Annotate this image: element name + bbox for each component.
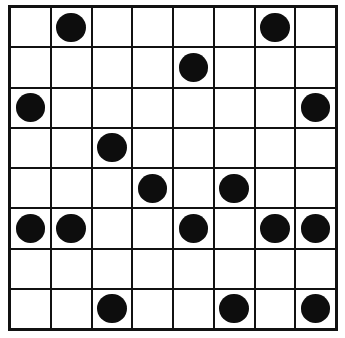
grid-cell[interactable]: [93, 250, 132, 288]
grid-cell[interactable]: [11, 169, 50, 207]
grid-cell[interactable]: [256, 129, 295, 167]
grid-cell[interactable]: [215, 89, 254, 127]
grid-cell[interactable]: [296, 169, 335, 207]
grid-cell[interactable]: [11, 250, 50, 288]
grid-cell[interactable]: [215, 209, 254, 247]
grid-cell[interactable]: [174, 89, 213, 127]
dot-icon: [97, 133, 126, 162]
dot-icon: [219, 294, 248, 323]
grid-cell[interactable]: [52, 209, 91, 247]
grid-cell[interactable]: [256, 89, 295, 127]
grid-cell[interactable]: [52, 89, 91, 127]
grid-cell[interactable]: [93, 169, 132, 207]
grid-cell[interactable]: [215, 290, 254, 328]
grid-cell[interactable]: [215, 169, 254, 207]
grid-cell[interactable]: [174, 169, 213, 207]
grid-cell[interactable]: [174, 129, 213, 167]
grid-cell[interactable]: [133, 129, 172, 167]
grid-cell[interactable]: [296, 89, 335, 127]
grid-cell[interactable]: [174, 8, 213, 46]
grid-cell[interactable]: [215, 250, 254, 288]
grid-cell[interactable]: [93, 129, 132, 167]
grid-cell[interactable]: [52, 48, 91, 86]
dot-icon: [219, 174, 248, 203]
grid-cell[interactable]: [256, 169, 295, 207]
grid-cell[interactable]: [93, 209, 132, 247]
grid-cell[interactable]: [133, 169, 172, 207]
grid-cell[interactable]: [52, 169, 91, 207]
grid-cell[interactable]: [256, 48, 295, 86]
grid-cell[interactable]: [133, 250, 172, 288]
grid-cell[interactable]: [52, 129, 91, 167]
grid-cell[interactable]: [93, 48, 132, 86]
dot-grid[interactable]: [8, 5, 338, 331]
grid-cell[interactable]: [93, 8, 132, 46]
grid-cell[interactable]: [52, 8, 91, 46]
grid-cell[interactable]: [11, 48, 50, 86]
grid-cell[interactable]: [296, 250, 335, 288]
grid-cell[interactable]: [93, 290, 132, 328]
grid-cell[interactable]: [174, 290, 213, 328]
grid-cell[interactable]: [256, 290, 295, 328]
grid-cell[interactable]: [52, 290, 91, 328]
grid-cell[interactable]: [11, 89, 50, 127]
dot-icon: [97, 294, 126, 323]
dot-icon: [56, 214, 85, 243]
grid-cell[interactable]: [93, 89, 132, 127]
grid-cell[interactable]: [256, 250, 295, 288]
grid-cell[interactable]: [133, 48, 172, 86]
dot-icon: [138, 174, 167, 203]
grid-cell[interactable]: [215, 129, 254, 167]
grid-cell[interactable]: [296, 8, 335, 46]
dot-icon: [301, 214, 330, 243]
grid-cell[interactable]: [11, 129, 50, 167]
dot-icon: [56, 13, 85, 42]
grid-cell[interactable]: [133, 89, 172, 127]
grid-cell[interactable]: [296, 290, 335, 328]
grid-cell[interactable]: [11, 290, 50, 328]
dot-icon: [179, 53, 208, 82]
grid-cell[interactable]: [256, 8, 295, 46]
grid-cell[interactable]: [215, 8, 254, 46]
grid-cell[interactable]: [133, 290, 172, 328]
dot-icon: [260, 214, 289, 243]
grid-cell[interactable]: [133, 8, 172, 46]
puzzle-canvas: [0, 0, 345, 338]
grid-cell[interactable]: [11, 8, 50, 46]
grid-cell[interactable]: [215, 48, 254, 86]
grid-cell[interactable]: [296, 48, 335, 86]
grid-cell[interactable]: [174, 250, 213, 288]
dot-icon: [16, 93, 45, 122]
dot-icon: [301, 294, 330, 323]
dot-icon: [301, 93, 330, 122]
grid-cell[interactable]: [256, 209, 295, 247]
grid-cell[interactable]: [174, 48, 213, 86]
grid-cell[interactable]: [296, 209, 335, 247]
grid-cell[interactable]: [11, 209, 50, 247]
grid-cell[interactable]: [174, 209, 213, 247]
dot-icon: [260, 13, 289, 42]
grid-cell[interactable]: [52, 250, 91, 288]
grid-cell[interactable]: [133, 209, 172, 247]
dot-icon: [16, 214, 45, 243]
dot-icon: [179, 214, 208, 243]
grid-cell[interactable]: [296, 129, 335, 167]
